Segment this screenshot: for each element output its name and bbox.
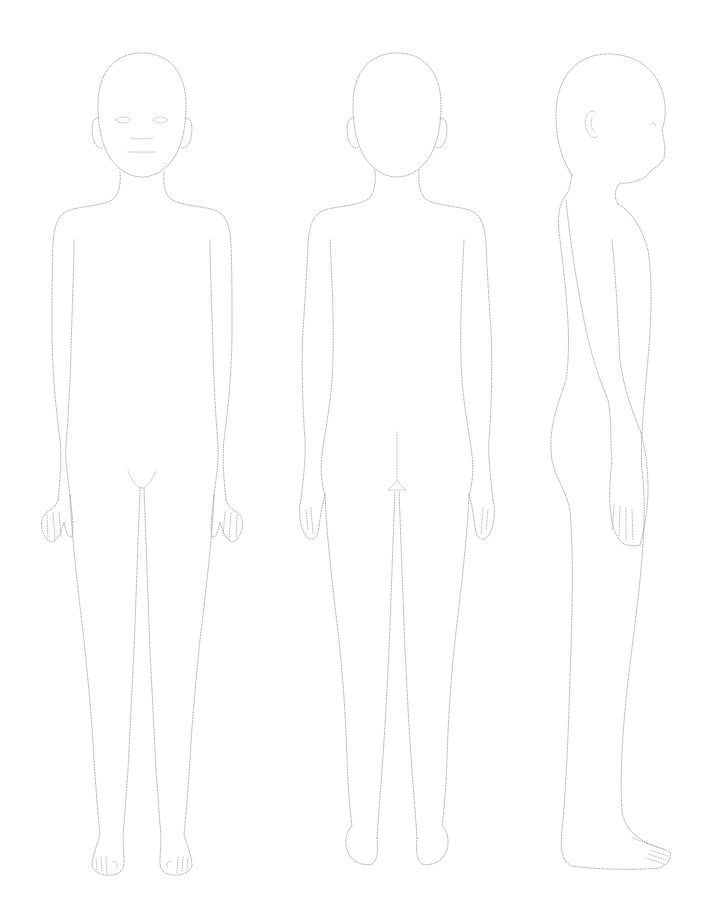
back-left-inner-arm [321,240,333,495]
back-left-leg-inner [377,492,395,838]
front-right-hand [211,495,242,542]
side-toes [632,838,668,864]
front-left-leg-outer [70,495,124,875]
front-body-right-side [164,172,232,500]
side-fingers [612,505,633,540]
figures-svg [0,0,710,917]
front-head-outline [98,53,186,177]
front-left-toes [96,857,117,873]
side-arm-front [612,240,648,545]
back-head-outline [353,53,441,177]
back-right-hand [469,495,494,539]
back-body-right-side [419,170,493,500]
front-left-leg-inner [124,488,140,825]
template-canvas [0,0,710,917]
back-left-hand [300,495,325,539]
front-nose [131,137,153,139]
back-right-ear [436,118,447,148]
back-right-fingers [481,508,488,534]
side-head-outline [556,54,665,204]
back-left-ear [347,118,358,148]
back-spine-line [388,432,406,490]
side-eye [651,123,655,127]
back-right-leg-outer [417,495,469,865]
figure-side-view [551,54,671,869]
front-left-fingers [47,512,61,540]
front-body-left-side [52,172,120,500]
front-right-inner-arm [210,240,218,495]
side-ear [585,111,598,137]
back-right-leg-inner [399,492,417,838]
back-body-left-side [301,170,375,500]
back-left-leg-outer [325,495,377,865]
front-right-toes [167,857,188,873]
back-left-fingers [306,508,313,534]
front-right-fingers [223,512,237,540]
front-left-hand [42,495,73,542]
front-right-leg-outer [160,495,214,875]
front-left-ear [92,118,103,148]
front-right-leg-inner [144,488,160,825]
side-back-outline [551,175,671,869]
figure-front-view [42,53,243,875]
side-arm-back [566,200,612,520]
front-right-ear [181,118,192,148]
front-groin-line [128,470,156,488]
front-right-eye [153,117,168,123]
back-right-inner-arm [461,240,473,495]
figure-back-view [300,53,495,865]
front-left-eye [116,117,131,123]
front-left-inner-arm [66,240,74,495]
